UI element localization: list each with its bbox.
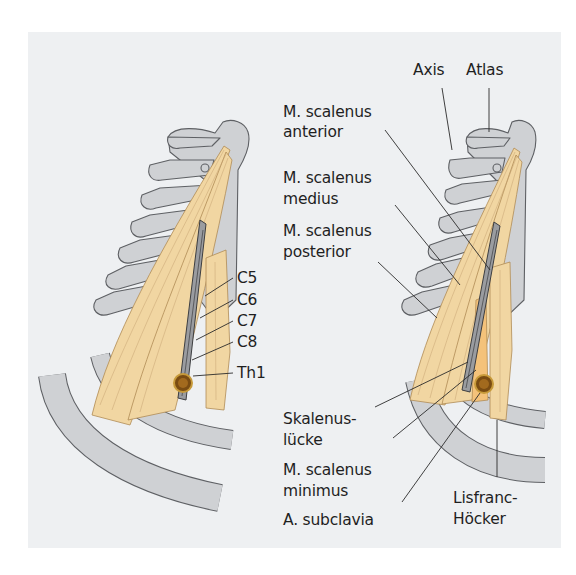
label-scalenus-posterior-line1: M. scalenus xyxy=(283,222,372,240)
label-c7: C7 xyxy=(237,312,257,330)
label-subclavia: A. subclavia xyxy=(283,511,374,529)
label-c6: C6 xyxy=(237,291,257,309)
label-scalenus-minimus-line1: M. scalenus xyxy=(283,461,372,479)
right-figure: Axis Atlas M. scalenus anterior M. scale… xyxy=(283,61,545,529)
label-axis: Axis xyxy=(413,61,444,79)
label-skalenusluecke-line1: Skalenus- xyxy=(283,410,356,428)
label-th1: Th1 xyxy=(236,364,266,382)
left-figure: C5 C6 C7 C8 Th1 xyxy=(52,120,266,498)
label-c5: C5 xyxy=(237,269,257,287)
label-lisfranc-line2: Höcker xyxy=(453,510,507,528)
label-c8: C8 xyxy=(237,333,257,351)
label-skalenusluecke-line2: lücke xyxy=(283,431,323,449)
label-scalenus-medius-line1: M. scalenus xyxy=(283,169,372,187)
right-subclavian-artery xyxy=(475,375,493,393)
label-scalenus-anterior-line1: M. scalenus xyxy=(283,103,372,121)
left-subclavian-artery xyxy=(174,374,192,392)
label-scalenus-posterior-line2: posterior xyxy=(283,243,352,261)
scalene-anatomy-diagram: C5 C6 C7 C8 Th1 xyxy=(0,0,576,575)
label-scalenus-anterior-line2: anterior xyxy=(283,123,344,141)
label-lisfranc-line1: Lisfranc- xyxy=(453,489,517,507)
label-scalenus-medius-line2: medius xyxy=(283,190,339,208)
label-scalenus-minimus-line2: minimus xyxy=(283,482,348,500)
label-atlas: Atlas xyxy=(466,61,503,79)
